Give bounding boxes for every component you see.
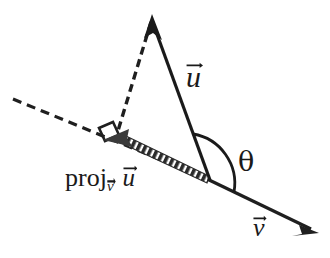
- arrow-over-u-icon: [186, 61, 203, 68]
- projection-label: proj v u: [65, 163, 135, 191]
- vector-projection-diagram: [0, 0, 330, 258]
- projection-subscript: v: [107, 178, 114, 194]
- v-vector-label: v: [253, 213, 265, 241]
- perpendicular-dashed: [117, 22, 151, 134]
- figure-canvas: u v θ proj v: [0, 0, 330, 258]
- u-vector-label: u: [186, 60, 201, 92]
- arrow-over-subscript-v-icon: [107, 177, 116, 184]
- arrow-over-v-icon: [253, 214, 267, 221]
- projection-prefix: proj: [65, 163, 107, 192]
- arrow-over-argument-u-icon: [123, 164, 138, 171]
- angle-theta-label: θ: [238, 148, 254, 175]
- u-arrowhead: [144, 14, 162, 40]
- projection-argument: u: [123, 164, 136, 191]
